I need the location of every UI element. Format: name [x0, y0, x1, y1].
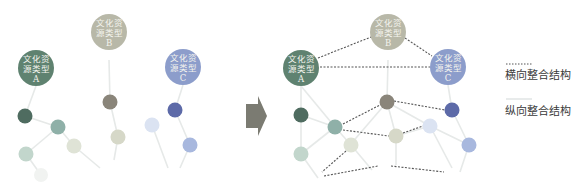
- node-faint: [34, 168, 48, 182]
- hub-c-label-line3: C: [180, 73, 187, 83]
- hub-b-label-line1: 文化资: [96, 18, 123, 28]
- node-medium-blue: [462, 138, 477, 153]
- node-medium-blue: [183, 138, 198, 153]
- node-dark-green: [18, 109, 33, 124]
- hub-b-label-line3: B: [385, 38, 391, 48]
- hub-c-label-line3: C: [445, 73, 452, 83]
- legend-horizontal-label: 横向整合结构: [505, 66, 571, 82]
- after-network: 文化资 源类型 A 文化资 源类型 B 文化资 源类型 C: [283, 14, 477, 178]
- node-pale-cream: [67, 139, 82, 154]
- node-gray-brown: [103, 95, 118, 110]
- transition-arrow-icon: [246, 96, 267, 136]
- node-dark-blue: [445, 103, 460, 118]
- node-teal: [51, 120, 66, 135]
- hub-a-label-line1: 文化资: [288, 54, 315, 64]
- node-light-blue: [423, 119, 438, 134]
- node-pale-cream: [344, 138, 359, 153]
- hub-a-label-line3: A: [32, 74, 40, 84]
- hub-a-label-line2: 源类型: [288, 64, 315, 74]
- hub-c-label-line1: 文化资: [435, 53, 462, 63]
- before-hub-a: 文化资 源类型 A: [18, 50, 54, 86]
- node-dark-green: [294, 108, 309, 123]
- hub-c-label-line2: 源类型: [435, 63, 462, 73]
- before-hub-b: 文化资 源类型 B: [91, 14, 127, 50]
- hub-a-label-line3: A: [297, 74, 305, 84]
- hub-b-label-line2: 源类型: [96, 28, 123, 38]
- node-light-blue: [145, 118, 160, 133]
- node-dark-blue: [168, 103, 183, 118]
- hub-c-label-line2: 源类型: [170, 63, 197, 73]
- hub-b-label-line2: 源类型: [375, 28, 402, 38]
- before-hub-c: 文化资 源类型 C: [165, 49, 201, 85]
- after-hub-a: 文化资 源类型 A: [283, 50, 319, 86]
- node-teal: [328, 120, 343, 135]
- integration-diagram: 文化资 源类型 A 文化资 源类型 B 文化资 源类型 C: [0, 0, 576, 196]
- hub-b-label-line1: 文化资: [375, 18, 402, 28]
- hub-b-label-line3: B: [106, 38, 112, 48]
- node-light-beige: [111, 130, 126, 145]
- hub-a-label-line1: 文化资: [23, 54, 50, 64]
- node-light-beige: [389, 129, 404, 144]
- after-hub-b: 文化资 源类型 B: [370, 14, 406, 50]
- hub-a-label-line2: 源类型: [23, 64, 50, 74]
- hub-c-label-line1: 文化资: [170, 53, 197, 63]
- before-network: 文化资 源类型 A 文化资 源类型 B 文化资 源类型 C: [18, 14, 202, 182]
- legend-vertical-label: 纵向整合结构: [505, 102, 571, 118]
- node-gray-brown: [380, 95, 395, 110]
- node-light-green: [294, 147, 309, 162]
- after-hub-c: 文化资 源类型 C: [430, 49, 466, 85]
- node-light-green: [19, 147, 34, 162]
